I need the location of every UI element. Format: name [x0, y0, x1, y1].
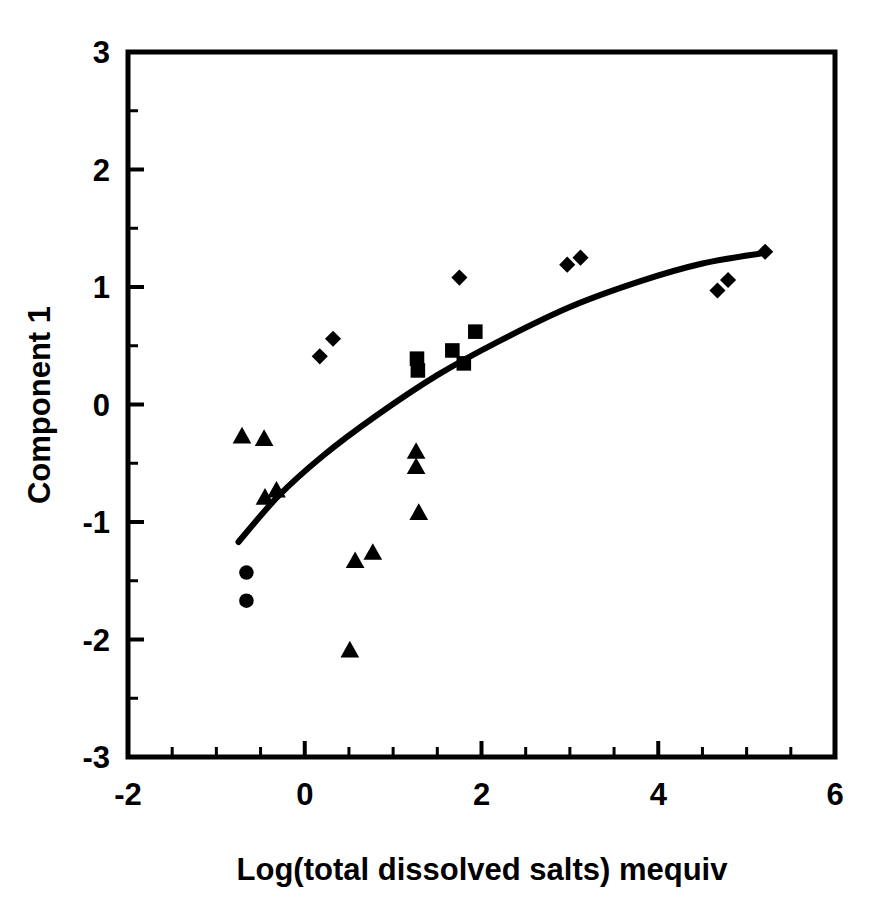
- marker-diamond: [451, 270, 467, 286]
- fit-curve-layer: [238, 253, 764, 542]
- y-axis-tick-labels: 3210-1-2-3: [82, 35, 110, 775]
- y-tick-label: 1: [93, 270, 110, 305]
- scatter-plot: -20246 3210-1-2-3 Log(total dissolved sa…: [0, 0, 872, 908]
- x-axis-tick-labels: -20246: [114, 777, 843, 812]
- x-axis-title: Log(total dissolved salts) mequiv: [237, 852, 729, 887]
- x-tick-label: 2: [473, 777, 490, 812]
- x-tick-label: -2: [114, 777, 142, 812]
- marker-diamond: [709, 282, 725, 298]
- x-tick-label: 6: [826, 777, 843, 812]
- marker-triangle: [233, 427, 252, 444]
- marker-triangle: [340, 641, 359, 658]
- marker-triangle: [407, 457, 426, 474]
- marker-triangle: [363, 543, 382, 560]
- chart-figure: -20246 3210-1-2-3 Log(total dissolved sa…: [0, 0, 872, 908]
- marker-square: [468, 324, 483, 339]
- marker-square: [457, 356, 472, 371]
- y-tick-label: -1: [82, 505, 110, 540]
- series-triangles: [233, 427, 428, 658]
- marker-triangle: [407, 442, 426, 459]
- marker-square: [445, 343, 460, 358]
- marker-square: [411, 363, 426, 378]
- marker-diamond: [325, 331, 341, 347]
- y-tick-label: -2: [82, 623, 110, 658]
- series-circles: [239, 565, 254, 608]
- x-tick-label: 4: [650, 777, 668, 812]
- marker-circle: [239, 565, 254, 580]
- marker-diamond: [572, 250, 588, 266]
- marker-diamond: [312, 348, 328, 364]
- marker-triangle: [409, 503, 428, 520]
- x-tick-label: 0: [296, 777, 313, 812]
- axis-frame: [128, 52, 835, 757]
- marker-diamond: [720, 272, 736, 288]
- marker-diamond: [559, 257, 575, 273]
- y-tick-label: -3: [82, 740, 110, 775]
- marker-triangle: [255, 429, 274, 446]
- plot-border: [128, 52, 835, 757]
- y-tick-label: 0: [93, 388, 110, 423]
- marker-diamond: [757, 244, 773, 260]
- marker-circle: [239, 593, 254, 608]
- y-tick-label: 2: [93, 153, 110, 188]
- y-axis-title: Component 1: [22, 306, 57, 504]
- y-tick-label: 3: [93, 35, 110, 70]
- marker-triangle: [346, 551, 365, 568]
- data-points-layer: [233, 244, 774, 658]
- fit-curve: [238, 253, 764, 542]
